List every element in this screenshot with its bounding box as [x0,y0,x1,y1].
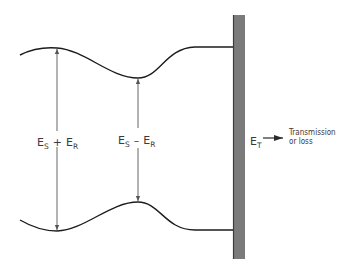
sum-e1: E [37,136,44,149]
trans-e: E [250,135,257,148]
diff-s1: S [125,140,130,149]
trans-s: T [257,141,262,150]
diff-s2: R [150,140,155,149]
diff-e1: E [118,134,125,147]
sum-s2: R [73,142,78,151]
sum-operator: + [53,136,62,149]
sum-label: ES+ER [37,133,78,149]
difference-label: ES–ER [118,131,155,147]
transmitted-label: ET [250,132,262,148]
sum-e2: E [66,136,73,149]
wall [233,15,245,259]
diff-operator: – [134,134,140,147]
transmission-line2: or loss [289,137,336,146]
sum-s1: S [44,142,49,151]
transmission-text: Transmission or loss [289,128,336,146]
upper-envelope-curve [20,47,233,78]
lower-envelope-curve [20,202,233,231]
